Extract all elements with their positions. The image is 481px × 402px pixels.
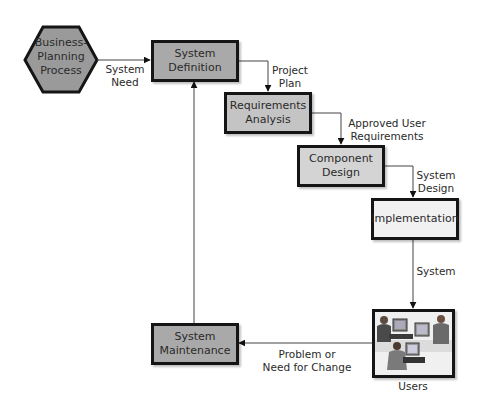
label-system-design-line-1: System xyxy=(416,169,456,182)
business-planning-label: Business- Planning Process xyxy=(25,36,97,78)
edge-approved-user-requirements xyxy=(311,113,341,144)
system-maintenance-line-1: System xyxy=(174,330,215,344)
component-design-line-1: Component xyxy=(309,152,373,166)
requirements-analysis-box: Requirements Analysis xyxy=(224,92,312,134)
implementation-box: Implementation xyxy=(371,198,459,240)
hex-line-2: Planning xyxy=(25,50,97,64)
component-design-line-2: Design xyxy=(322,166,360,180)
system-definition-line-2: Definition xyxy=(168,61,221,75)
label-system-line-1: System xyxy=(416,265,455,277)
system-definition-box: System Definition xyxy=(151,40,239,82)
label-users: Users xyxy=(393,380,433,393)
label-system-design: System Design xyxy=(416,169,456,195)
label-system-need: System Need xyxy=(100,63,150,89)
people-at-computers-icon xyxy=(375,312,452,375)
label-problem-line-1: Problem or xyxy=(262,348,352,361)
label-system-design-line-2: Design xyxy=(416,182,456,195)
diagram-canvas: Business- Planning Process System Defini… xyxy=(0,0,481,402)
label-project-plan-line-1: Project xyxy=(270,64,310,77)
label-project-plan: Project Plan xyxy=(270,64,310,90)
system-maintenance-line-2: Maintenance xyxy=(160,344,231,358)
label-aur-line-2: Requirements xyxy=(345,130,429,143)
hex-line-3: Process xyxy=(25,64,97,78)
label-project-plan-line-2: Plan xyxy=(270,77,310,90)
edge-system-design xyxy=(384,166,413,197)
label-aur-line-1: Approved User xyxy=(345,117,429,130)
implementation-label: Implementation xyxy=(371,212,458,226)
edge-project-plan xyxy=(238,61,268,91)
system-maintenance-box: System Maintenance xyxy=(151,323,239,365)
hex-line-1: Business- xyxy=(25,36,97,50)
label-system: System xyxy=(416,265,456,278)
label-problem-or-need: Problem or Need for Change xyxy=(262,348,352,374)
system-definition-line-1: System xyxy=(174,47,215,61)
requirements-analysis-line-1: Requirements xyxy=(230,99,306,113)
requirements-analysis-line-2: Analysis xyxy=(245,113,290,127)
users-illustration xyxy=(372,309,455,378)
label-system-need-line-1: System xyxy=(100,63,150,76)
users-caption: Users xyxy=(398,380,427,392)
component-design-box: Component Design xyxy=(297,145,385,187)
label-approved-user-requirements: Approved User Requirements xyxy=(345,117,429,143)
label-system-need-line-2: Need xyxy=(100,76,150,89)
label-problem-line-2: Need for Change xyxy=(262,361,352,374)
